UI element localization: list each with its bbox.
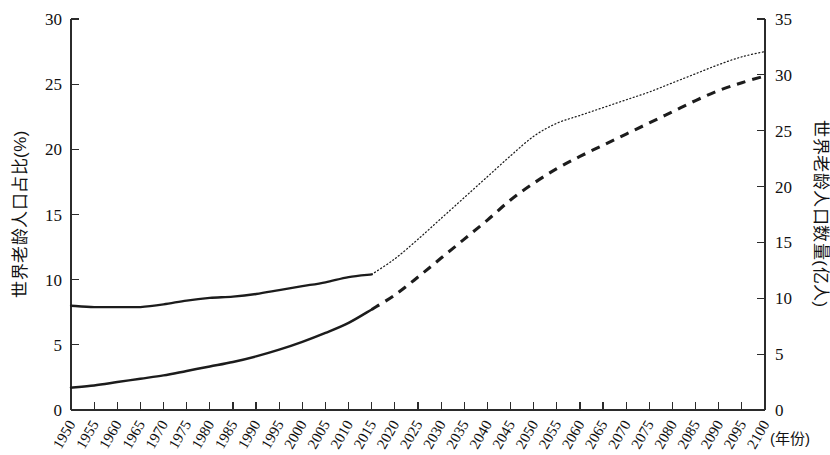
x-tick-label: 1985 bbox=[212, 418, 241, 452]
x-tick-label: 2090 bbox=[697, 418, 726, 452]
x-tick-label: 2030 bbox=[420, 418, 449, 452]
y-axis-left-ticks: 051015202530 bbox=[45, 10, 79, 420]
series-1-historical-line bbox=[71, 309, 372, 387]
y-axis-left-title: 世界老龄人口占比(%) bbox=[11, 130, 30, 298]
y-tick-label: 5 bbox=[54, 336, 63, 355]
x-tick-label: 1980 bbox=[189, 418, 218, 452]
x-tick-label: 2045 bbox=[489, 418, 518, 452]
x-tick-label: 1965 bbox=[119, 418, 148, 452]
y2-tick-label: 35 bbox=[775, 10, 792, 29]
y-axis-right-ticks: 05101520253035 bbox=[757, 10, 792, 420]
y-tick-label: 10 bbox=[45, 271, 62, 290]
x-tick-label: 1990 bbox=[235, 418, 264, 452]
y2-tick-label: 30 bbox=[775, 66, 792, 85]
x-axis-title: (年份) bbox=[770, 430, 810, 447]
series-1-projected-line bbox=[372, 76, 765, 309]
x-tick-label: 2055 bbox=[536, 418, 565, 452]
x-tick-label: 1960 bbox=[96, 418, 125, 452]
y2-tick-label: 0 bbox=[775, 401, 784, 420]
y2-tick-label: 15 bbox=[775, 233, 792, 252]
x-tick-label: 1995 bbox=[258, 418, 287, 452]
x-tick-label: 2065 bbox=[582, 418, 611, 452]
y-tick-label: 0 bbox=[54, 401, 63, 420]
x-tick-label: 2075 bbox=[628, 418, 657, 452]
x-tick-label: 2010 bbox=[327, 418, 356, 452]
x-tick-label: 1955 bbox=[73, 418, 102, 452]
x-tick-label: 1975 bbox=[165, 418, 194, 452]
x-tick-label: 2025 bbox=[397, 418, 426, 452]
plot-frame bbox=[71, 19, 765, 410]
x-tick-label: 1970 bbox=[142, 418, 171, 452]
y-tick-label: 25 bbox=[45, 75, 62, 94]
y2-tick-label: 5 bbox=[775, 345, 784, 364]
y-axis-right-title: 世界老龄人口数量(亿人) bbox=[811, 120, 830, 307]
x-tick-label: 2080 bbox=[651, 418, 680, 452]
x-tick-label: 2050 bbox=[512, 418, 541, 452]
x-tick-label: 2095 bbox=[721, 418, 750, 452]
y2-tick-label: 10 bbox=[775, 289, 792, 308]
x-tick-label: 1950 bbox=[50, 418, 79, 452]
y-tick-label: 20 bbox=[45, 140, 62, 159]
x-tick-label: 2070 bbox=[605, 418, 634, 452]
y2-tick-label: 20 bbox=[775, 178, 792, 197]
x-tick-label: 2035 bbox=[443, 418, 472, 452]
x-tick-label: 2015 bbox=[350, 418, 379, 452]
x-tick-label: 2005 bbox=[304, 418, 333, 452]
x-tick-label: 2085 bbox=[674, 418, 703, 452]
x-tick-label: 2020 bbox=[374, 418, 403, 452]
x-tick-label: 2060 bbox=[559, 418, 588, 452]
x-tick-label: 2040 bbox=[466, 418, 495, 452]
y-tick-label: 15 bbox=[45, 206, 62, 225]
y2-tick-label: 25 bbox=[775, 122, 792, 141]
x-tick-label: 2000 bbox=[281, 418, 310, 452]
series-0-historical-line bbox=[71, 274, 372, 307]
chart-container: 051015202530 05101520253035 195019551960… bbox=[0, 0, 830, 455]
population-aging-chart: 051015202530 05101520253035 195019551960… bbox=[0, 0, 830, 455]
series-layer bbox=[71, 52, 765, 388]
x-tick-label: 2100 bbox=[744, 418, 773, 452]
y-tick-label: 30 bbox=[45, 10, 62, 29]
